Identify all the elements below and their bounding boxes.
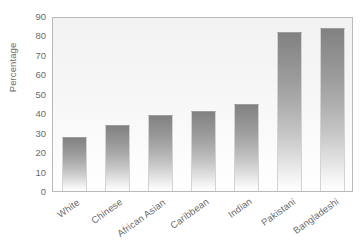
bar [148, 115, 174, 191]
y-tick-label: 30 [6, 129, 46, 139]
bar [105, 125, 131, 191]
bar-series [53, 18, 352, 191]
y-tick-label: 60 [6, 70, 46, 80]
x-tick-label: Indian [226, 196, 254, 220]
bar [277, 32, 303, 191]
bar [234, 104, 260, 192]
x-tick-label: White [55, 196, 82, 219]
chart-page: Percentage 0102030405060708090 WhiteChin… [0, 0, 362, 250]
x-tick-label: Chinese [89, 196, 124, 226]
y-tick-label: 50 [6, 90, 46, 100]
bar [191, 111, 217, 191]
chart-title [0, 0, 362, 1]
y-tick-label: 10 [6, 168, 46, 178]
y-tick-label: 70 [6, 51, 46, 61]
y-tick-label: 40 [6, 109, 46, 119]
plot-area [52, 17, 353, 192]
x-tick-label: Caribbean [168, 196, 211, 231]
y-tick-label: 20 [6, 148, 46, 158]
bar [320, 28, 346, 191]
x-tick-label: Bangladeshi [291, 196, 341, 236]
x-tick-label: Pakistani [259, 196, 297, 228]
y-tick-label: 90 [6, 12, 46, 22]
bar [62, 137, 88, 191]
x-axis-tick-labels: WhiteChineseAfrican AsianCaribbeanIndian… [0, 192, 362, 250]
y-tick-label: 80 [6, 31, 46, 41]
x-tick-label: African Asian [115, 196, 167, 238]
